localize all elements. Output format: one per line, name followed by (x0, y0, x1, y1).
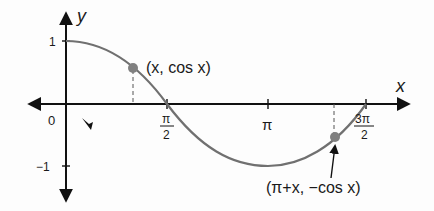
y-tick-neg-1: −1 (36, 160, 50, 174)
x-tick-pi-half-num: π (162, 112, 170, 126)
cosine-graph: y x 1 −1 0 π 2 π 3π 2 (x, cos x) (π+x, −… (0, 0, 434, 211)
point1-label: (x, cos x) (146, 59, 211, 76)
small-mark-icon (82, 118, 93, 130)
point-x-cosx (128, 63, 138, 73)
x-tick-pi: π (262, 116, 272, 133)
point-pi-plus-x (330, 132, 340, 142)
y-axis-label: y (75, 6, 87, 26)
x-tick-3pi-half-den: 2 (361, 128, 368, 142)
y-tick-1: 1 (49, 35, 56, 49)
pointer-arrow (331, 146, 335, 178)
x-tick-3pi-half-num: 3π (355, 112, 370, 126)
point2-label: (π+x, −cos x) (266, 179, 361, 196)
origin-label: 0 (48, 113, 55, 128)
x-axis-label: x (395, 76, 406, 96)
x-tick-pi-half-den: 2 (163, 128, 170, 142)
chart-svg: y x 1 −1 0 π 2 π 3π 2 (x, cos x) (π+x, −… (0, 0, 434, 211)
